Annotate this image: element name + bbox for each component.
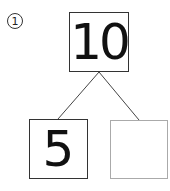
connector-left <box>58 72 99 119</box>
part-box-right-empty[interactable] <box>110 120 168 179</box>
whole-number-box: 10 <box>69 12 129 72</box>
connector-right <box>99 72 139 120</box>
whole-number: 10 <box>70 13 128 71</box>
part-number-left: 5 <box>43 120 75 178</box>
part-box-left: 5 <box>29 119 88 179</box>
